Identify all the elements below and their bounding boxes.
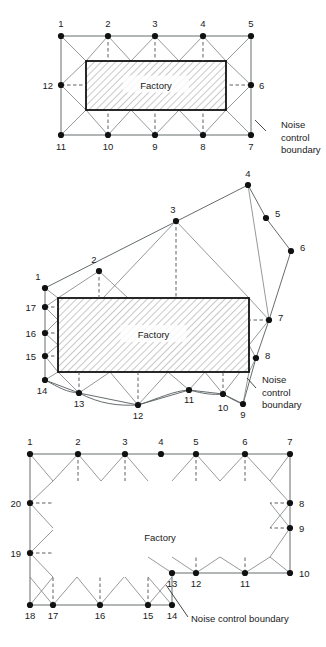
measurement-point-label: 13 [74, 398, 85, 409]
measurement-point-label: 20 [10, 498, 21, 509]
measurement-point-label: 4 [245, 168, 250, 179]
measurement-point-label: 6 [242, 436, 247, 447]
measurement-point-label: 5 [193, 436, 198, 447]
measurement-point-marker[interactable] [27, 602, 33, 608]
measurement-point-marker[interactable] [145, 602, 151, 608]
measurement-point-marker[interactable] [242, 451, 248, 457]
construction-ray [131, 36, 155, 61]
measurement-point-marker[interactable] [248, 33, 254, 39]
measurement-point-marker[interactable] [169, 570, 175, 576]
measurement-point-label: 12 [133, 410, 144, 421]
measurement-point-label: 2 [91, 254, 96, 265]
measurement-point-marker[interactable] [200, 132, 206, 138]
construction-ray [77, 577, 100, 605]
measurement-point-marker[interactable] [42, 304, 48, 310]
measurement-point-marker[interactable] [248, 82, 254, 88]
irregular-boundary-17-point: Factory1234567891011121314151617Noisecon… [25, 168, 305, 421]
measurement-point-marker[interactable] [263, 215, 269, 221]
measurement-point-marker[interactable] [50, 602, 56, 608]
measurement-point-marker[interactable] [27, 500, 33, 506]
measurement-point-marker[interactable] [287, 500, 293, 506]
construction-ray [270, 528, 290, 557]
measurement-point-marker[interactable] [42, 330, 48, 336]
measurement-point-label: 6 [300, 242, 305, 253]
measurement-point-marker[interactable] [173, 218, 179, 224]
factory-label: Factory [138, 329, 170, 340]
measurement-point-marker[interactable] [186, 387, 192, 393]
measurement-point-marker[interactable] [96, 268, 102, 274]
measurement-point-label: 7 [287, 436, 292, 447]
construction-ray [245, 454, 270, 481]
measurement-point-marker[interactable] [158, 451, 164, 457]
measurement-point-marker[interactable] [193, 451, 199, 457]
measurement-point-marker[interactable] [58, 33, 64, 39]
measurement-point-marker[interactable] [242, 570, 248, 576]
figure-layer: Factory123456789101112Noisecontrolbounda… [10, 18, 320, 624]
construction-ray [249, 320, 269, 345]
measurement-point-marker[interactable] [152, 33, 158, 39]
measurement-point-label: 17 [25, 302, 36, 313]
measurement-point-marker[interactable] [245, 182, 251, 188]
measurement-point-marker[interactable] [266, 317, 272, 323]
measurement-point-marker[interactable] [42, 353, 48, 359]
measurement-point-label: 1 [35, 271, 40, 282]
factory-label: Factory [144, 532, 176, 543]
measurement-point-label: 4 [158, 436, 163, 447]
measurement-point-label: 11 [240, 578, 250, 589]
noise-control-boundary-caption: boundary [262, 399, 302, 410]
construction-ray [79, 372, 110, 393]
construction-ray [30, 503, 53, 528]
construction-ray [203, 110, 226, 135]
measurement-point-marker[interactable] [287, 525, 293, 531]
measurement-point-marker[interactable] [253, 355, 259, 361]
measurement-point-marker[interactable] [200, 33, 206, 39]
measurement-point-label: 10 [218, 402, 229, 413]
measurement-point-marker[interactable] [105, 132, 111, 138]
measurement-point-marker[interactable] [42, 285, 48, 291]
measurement-point-marker[interactable] [288, 248, 294, 254]
measurement-point-label: 8 [299, 498, 304, 509]
measurement-point-label: 9 [299, 523, 304, 534]
construction-ray [196, 454, 220, 481]
measurement-point-marker[interactable] [220, 391, 226, 397]
measurement-point-marker[interactable] [97, 602, 103, 608]
measurement-point-marker[interactable] [76, 390, 82, 396]
construction-ray [179, 110, 203, 135]
measurement-point-marker[interactable] [135, 402, 141, 408]
construction-ray [61, 85, 86, 110]
measurement-point-marker[interactable] [240, 401, 246, 407]
construction-ray [220, 454, 245, 481]
measurement-point-label: 15 [143, 610, 154, 621]
measurement-point-marker[interactable] [42, 377, 48, 383]
measurement-point-marker[interactable] [58, 82, 64, 88]
measurement-point-label: 6 [259, 80, 264, 91]
construction-ray [176, 221, 249, 298]
construction-ray [196, 557, 220, 573]
construction-ray [155, 36, 179, 61]
measurement-point-label: 10 [103, 141, 114, 152]
measurement-point-label: 3 [170, 204, 175, 215]
measurement-point-marker[interactable] [27, 451, 33, 457]
measurement-point-label: 14 [37, 385, 48, 396]
construction-ray [53, 577, 77, 605]
measurement-point-marker[interactable] [193, 570, 199, 576]
measurement-point-marker[interactable] [58, 132, 64, 138]
construction-ray [245, 557, 270, 573]
measurement-point-marker[interactable] [169, 602, 175, 608]
measurement-point-label: 13 [167, 578, 178, 589]
measurement-point-marker[interactable] [287, 570, 293, 576]
noise-control-boundary-caption: Noise control boundary [191, 613, 289, 624]
measurement-point-marker[interactable] [122, 451, 128, 457]
construction-ray [58, 372, 79, 393]
construction-ray [30, 553, 53, 577]
measurement-point-marker[interactable] [105, 33, 111, 39]
construction-ray [101, 454, 125, 481]
measurement-point-marker[interactable] [75, 451, 81, 457]
construction-ray [148, 557, 172, 573]
construction-ray [30, 454, 53, 481]
measurement-point-marker[interactable] [27, 550, 33, 556]
measurement-point-marker[interactable] [248, 132, 254, 138]
measurement-point-marker[interactable] [152, 132, 158, 138]
measurement-point-marker[interactable] [287, 451, 293, 457]
measurement-point-label: 11 [184, 394, 194, 405]
